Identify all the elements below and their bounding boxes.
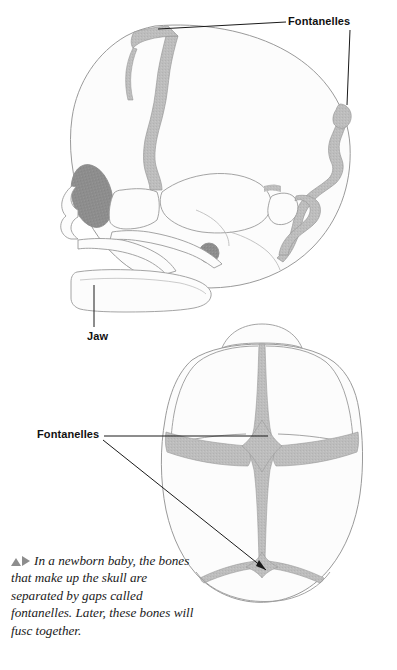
label-jaw: Jaw (87, 330, 108, 342)
triangle-right-icon (22, 556, 30, 566)
label-fontanelles-top: Fontanelles (288, 15, 350, 27)
label-fontanelles-middle: Fontanelles (37, 428, 99, 440)
triangle-up-icon (11, 558, 21, 566)
figure-caption: In a newborn baby, the bones that make u… (11, 552, 201, 639)
lateral-skull-view (61, 22, 351, 327)
leader-line-fontanelles-top-vertical (347, 30, 350, 105)
maxilla (109, 189, 159, 229)
caption-markers (11, 552, 31, 569)
figure-root: Fontanelles Jaw Fontanelles In a newborn… (0, 0, 397, 670)
caption-text: In a newborn baby, the bones that make u… (11, 553, 193, 638)
